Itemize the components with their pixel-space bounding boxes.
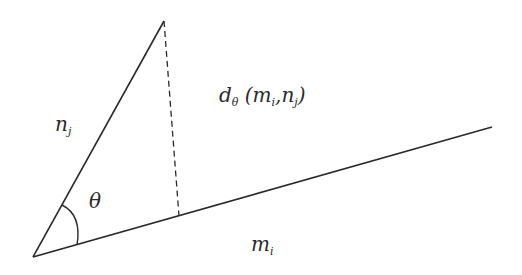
label-distance: dθ (mi,nj) [219,83,306,107]
distance-arg1: m [253,83,272,107]
label-mi-main: m [251,232,270,256]
distance-arg2: n [281,83,294,107]
diagram-canvas: nj θ mi dθ (mi,nj) [0,0,522,275]
projection-dashed-line [164,21,179,216]
label-nj: nj [55,112,71,136]
label-theta: θ [89,189,101,213]
label-mi-sub: i [270,245,274,258]
distance-d-sub: θ [232,96,239,109]
label-nj-main: n [55,112,68,136]
label-nj-sub: j [68,125,71,138]
distance-d: d [219,83,232,107]
vector-nj-line [33,21,164,257]
distance-arg1-sub: i [272,96,276,109]
angle-arc [62,205,78,245]
distance-open-paren: ( [238,83,252,107]
distance-arg2-sub: j [294,96,297,109]
label-mi: mi [251,232,274,256]
distance-close-paren: ) [298,83,306,107]
